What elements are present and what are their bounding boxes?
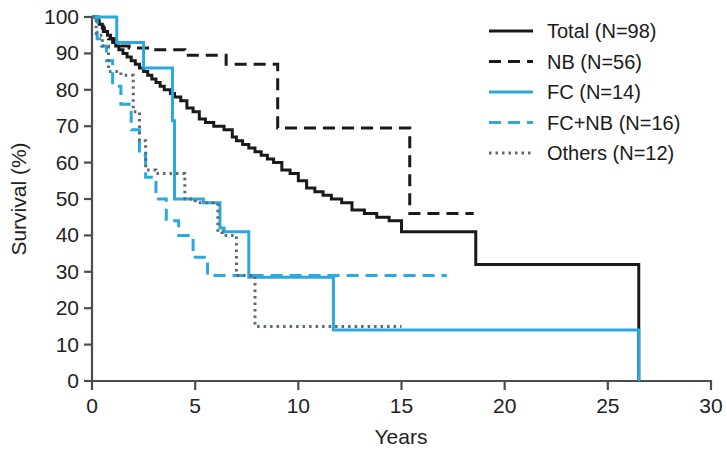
- y-tick-label: 80: [56, 78, 79, 101]
- x-tick-label: 15: [390, 394, 413, 417]
- y-axis-ticks: 0102030405060708090100: [44, 5, 92, 392]
- y-tick-label: 90: [56, 41, 79, 64]
- y-axis-title: Survival (%): [7, 142, 30, 255]
- x-tick-label: 0: [86, 394, 98, 417]
- legend-label-0: Total (N=98): [547, 20, 657, 42]
- chart-legend: Total (N=98)NB (N=56)FC (N=14)FC+NB (N=1…: [489, 20, 680, 164]
- legend-label-2: FC (N=14): [547, 81, 641, 103]
- x-tick-label: 30: [699, 394, 722, 417]
- x-tick-label: 5: [189, 394, 201, 417]
- series-line-1: [92, 17, 474, 214]
- y-tick-label: 10: [56, 333, 79, 356]
- chart-canvas: 0102030405060708090100 051015202530 Surv…: [0, 0, 727, 453]
- y-tick-label: 100: [44, 5, 79, 28]
- x-tick-label: 20: [493, 394, 516, 417]
- survival-chart: 0102030405060708090100 051015202530 Surv…: [0, 0, 727, 453]
- y-tick-label: 20: [56, 296, 79, 319]
- y-tick-label: 50: [56, 187, 79, 210]
- y-tick-label: 40: [56, 223, 79, 246]
- legend-label-4: Others (N=12): [547, 142, 674, 164]
- y-tick-label: 30: [56, 260, 79, 283]
- legend-label-3: FC+NB (N=16): [547, 112, 680, 134]
- x-axis-ticks: 051015202530: [86, 381, 723, 417]
- y-tick-label: 70: [56, 114, 79, 137]
- x-axis-title: Years: [375, 425, 428, 448]
- x-tick-label: 10: [287, 394, 310, 417]
- legend-label-1: NB (N=56): [547, 51, 642, 73]
- y-tick-label: 60: [56, 151, 79, 174]
- y-tick-label: 0: [67, 369, 79, 392]
- x-tick-label: 25: [596, 394, 619, 417]
